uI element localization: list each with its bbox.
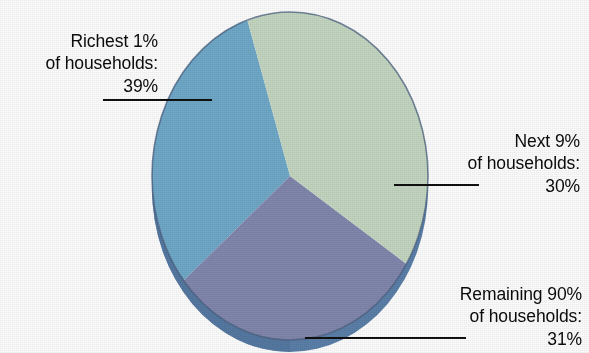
- label-richest-1: Richest 1% of households: 39%: [8, 30, 158, 97]
- label-remaining-90-value: 31%: [396, 328, 582, 350]
- label-richest-1-value: 39%: [8, 75, 158, 97]
- label-richest-1-line2: of households:: [8, 52, 158, 74]
- label-remaining-90-line1: Remaining 90%: [396, 283, 582, 305]
- label-next-9-line2: of households:: [420, 152, 580, 174]
- label-richest-1-line1: Richest 1%: [8, 30, 158, 52]
- label-next-9-line1: Next 9%: [420, 130, 580, 152]
- label-next-9-value: 30%: [420, 175, 580, 197]
- pie-chart-figure: Richest 1% of households: 39% Next 9% of…: [0, 0, 589, 353]
- label-remaining-90: Remaining 90% of households: 31%: [396, 283, 582, 350]
- label-remaining-90-line2: of households:: [396, 305, 582, 327]
- label-next-9: Next 9% of households: 30%: [420, 130, 580, 197]
- pie-front-face: [152, 12, 428, 340]
